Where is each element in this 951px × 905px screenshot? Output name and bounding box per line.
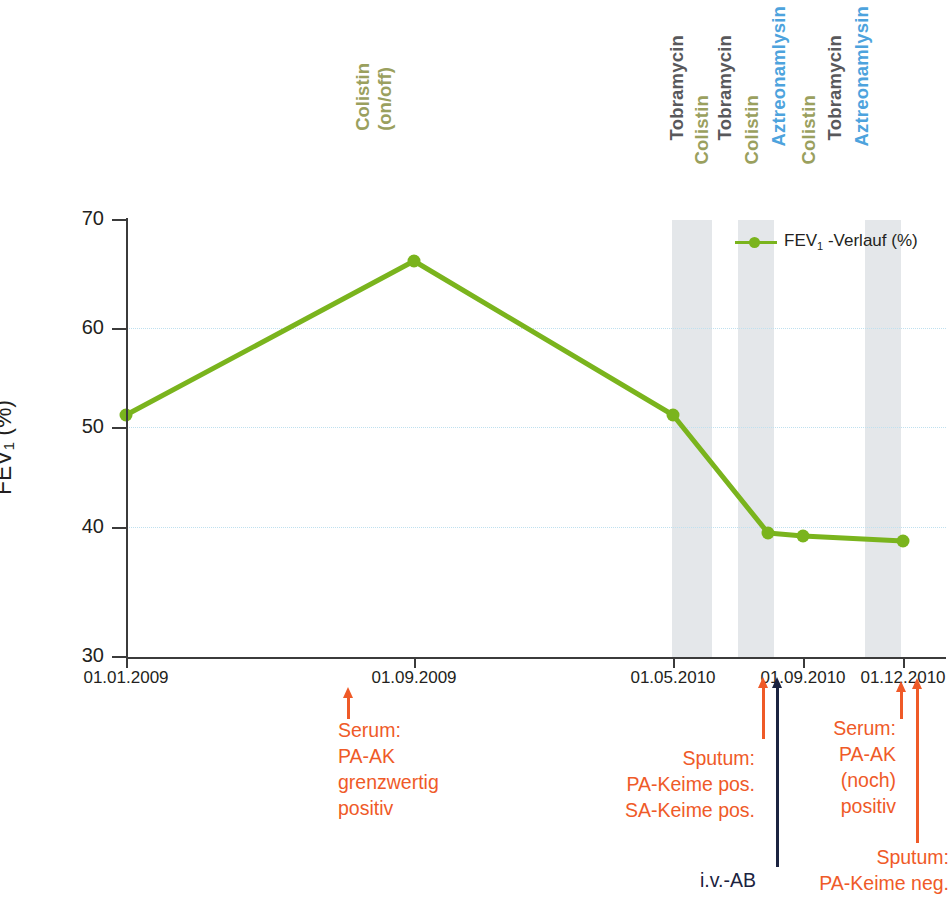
therapy-label-tobramycin-1: Tobramycin bbox=[667, 35, 686, 140]
y-tick-40 bbox=[112, 527, 126, 529]
data-point bbox=[667, 409, 680, 422]
data-point bbox=[762, 527, 775, 540]
annotation-arrow-serum-2009 bbox=[347, 687, 350, 719]
x-tick-3 bbox=[673, 657, 675, 668]
annotation-sputum-neg: Sputum: PA-Keime neg. bbox=[740, 845, 949, 897]
y-axis-label-sub: 1 bbox=[1, 442, 17, 450]
annotation-sputum-2010: Sputum: PA-Keime pos. SA-Keime pos. bbox=[570, 746, 755, 824]
y-tick-label-60: 60 bbox=[58, 316, 104, 339]
chart-page: Colistin (on/off) Tobramycin Colistin To… bbox=[0, 0, 951, 905]
data-point bbox=[797, 530, 810, 543]
legend: FEV1 -Verlauf (%) bbox=[735, 231, 918, 252]
y-tick-label-50: 50 bbox=[58, 415, 104, 438]
therapy-label-colistin-onoff: Colistin (on/off) bbox=[352, 63, 396, 131]
annotation-serum-2010: Serum: PA-AK (noch) positiv bbox=[770, 716, 896, 820]
y-tick-label-40: 40 bbox=[58, 515, 104, 538]
x-axis-line bbox=[126, 657, 946, 659]
legend-label-main: FEV bbox=[784, 231, 817, 250]
y-axis-label-unit: (%) bbox=[0, 400, 16, 442]
x-tick-1 bbox=[126, 657, 128, 668]
data-point bbox=[408, 255, 421, 268]
fev1-series bbox=[126, 220, 946, 657]
therapy-label-aztreonamlysin-1: Aztreonamlysin bbox=[769, 6, 788, 147]
annotation-arrow-sputum-neg bbox=[916, 678, 919, 843]
therapy-label-colistin-2: Colistin bbox=[742, 95, 761, 164]
annotation-arrow-serum-2010 bbox=[900, 681, 903, 719]
therapy-label-colistin-1: Colistin bbox=[692, 95, 711, 164]
plot-area bbox=[126, 220, 946, 657]
x-tick-5 bbox=[903, 657, 905, 668]
x-tick-label-2: 01.09.2009 bbox=[371, 668, 456, 688]
y-axis-label-main: FEV bbox=[0, 450, 16, 495]
y-tick-label-30: 30 bbox=[58, 644, 104, 667]
x-tick-2 bbox=[414, 657, 416, 668]
fev1-line bbox=[126, 261, 903, 541]
y-axis-line bbox=[126, 218, 128, 659]
legend-label-rest: -Verlauf (%) bbox=[823, 231, 917, 250]
therapy-label-tobramycin-3: Tobramycin bbox=[825, 35, 844, 140]
annotation-serum-2009: Serum: PA-AK grenzwertig positiv bbox=[338, 718, 439, 822]
legend-label: FEV1 -Verlauf (%) bbox=[784, 231, 918, 252]
y-tick-50 bbox=[112, 427, 126, 429]
therapy-label-aztreonamlysin-2: Aztreonamlysin bbox=[852, 6, 871, 147]
y-tick-60 bbox=[112, 328, 126, 330]
y-axis-label: FEV1 (%) bbox=[0, 400, 17, 495]
annotation-arrow-sputum-2010 bbox=[762, 677, 765, 739]
x-tick-4 bbox=[803, 657, 805, 668]
legend-line-marker-icon bbox=[735, 236, 777, 248]
y-tick-30 bbox=[112, 656, 126, 658]
y-tick-70 bbox=[112, 219, 126, 221]
therapy-label-colistin-3: Colistin bbox=[799, 95, 818, 164]
x-tick-label-1: 01.01.2009 bbox=[83, 668, 168, 688]
y-tick-label-70: 70 bbox=[58, 207, 104, 230]
therapy-label-tobramycin-2: Tobramycin bbox=[715, 35, 734, 140]
x-tick-label-3: 01.05.2010 bbox=[630, 668, 715, 688]
data-point bbox=[897, 535, 910, 548]
